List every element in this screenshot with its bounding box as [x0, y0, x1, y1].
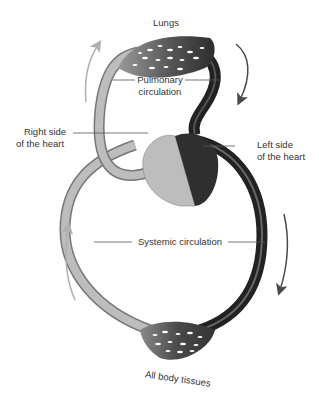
label-pulmonary-line1: Pulmonary: [137, 74, 183, 85]
label-left-heart-line1: Left side: [257, 139, 293, 150]
label-lungs: Lungs: [153, 17, 179, 28]
arrow-systemic-down: [280, 214, 287, 290]
label-tissues: All body tissues: [144, 368, 211, 388]
circulation-diagram: Lungs Pulmonary circulation Right side o…: [0, 0, 319, 399]
label-pulmonary-line2: circulation: [139, 86, 182, 97]
arrow-pulmonary-up: [86, 45, 99, 102]
label-systemic: Systemic circulation: [138, 236, 222, 247]
label-right-heart-line1: Right side: [24, 126, 66, 137]
arrow-pulmonary-down: [236, 44, 248, 100]
label-left-heart-line2: of the heart: [257, 151, 305, 162]
tissues-capillary-bed: [140, 322, 215, 360]
heart: [143, 133, 218, 206]
label-right-heart-line2: of the heart: [16, 138, 64, 149]
lungs-capillary-bed: [118, 36, 215, 78]
